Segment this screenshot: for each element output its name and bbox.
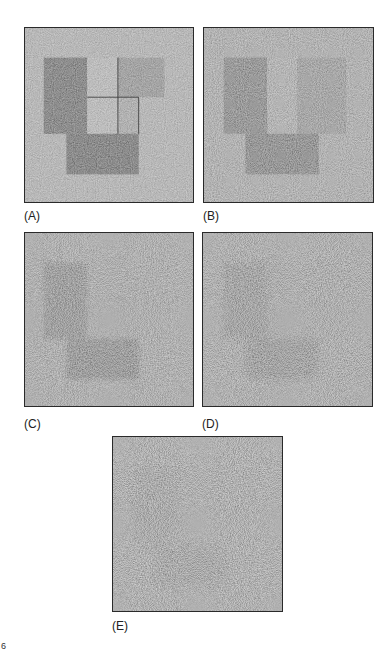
panel-d-label: (D) [202,418,219,430]
panel-d-image [203,233,372,406]
panel-c [24,232,194,407]
panel-b [203,27,374,203]
corner-mark: 6 [1,641,6,651]
panel-e [112,436,283,612]
panel-e-image [113,437,282,611]
panel-a-image [25,28,193,202]
panel-d [202,232,373,407]
panel-a-label: (A) [24,210,40,222]
panel-c-label: (C) [24,418,41,430]
panel-c-image [25,233,193,406]
panel-b-label: (B) [203,210,219,222]
panel-b-image [204,28,373,202]
panel-e-label: (E) [112,620,128,632]
panel-a [24,27,194,203]
